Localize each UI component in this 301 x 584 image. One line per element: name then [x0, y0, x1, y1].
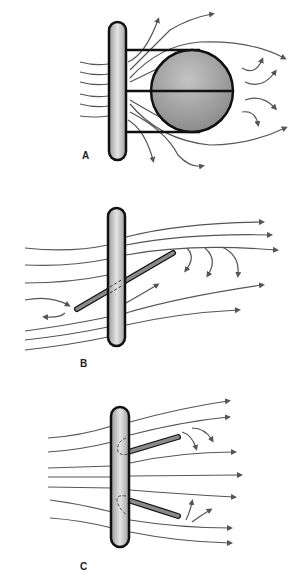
lower-strut-shape — [128, 500, 178, 516]
panel-a: A — [0, 0, 301, 195]
panel-label-b: B — [80, 358, 87, 369]
sphere-post-diagram — [0, 0, 301, 195]
double-strut-diagram — [0, 380, 301, 584]
panel-b: B — [0, 195, 301, 380]
post-shape — [109, 22, 126, 160]
upper-strut-shape — [128, 437, 178, 452]
panel-label-c: C — [80, 561, 87, 572]
post-shape — [108, 208, 125, 346]
panel-c: C — [0, 380, 301, 584]
diagonal-strut-diagram — [0, 195, 301, 380]
panel-label-a: A — [82, 150, 89, 161]
post-shape — [111, 407, 129, 547]
